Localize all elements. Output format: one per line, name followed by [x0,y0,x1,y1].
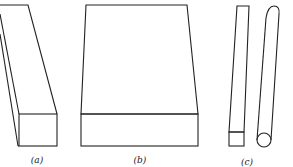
figure-c-square-rod [229,6,249,146]
figure-a-end-face [19,114,57,146]
figure-c-cylinder-right [266,6,279,140]
figure-c-cylinder-left [257,18,266,140]
diagram-canvas [0,0,293,167]
figure-b-front-face [81,114,198,146]
figure-b-label: (b) [134,155,147,165]
figure-a-left-edge [0,14,19,114]
figure-c-rod-end [229,132,244,146]
figure-c-label: (c) [241,157,253,167]
figure-c-rod-body [229,6,249,132]
figure-a-back-edge [0,34,18,146]
figure-a-label: (a) [31,155,43,165]
figure-b-top-face [81,5,198,114]
figure-c-cylinder [257,6,279,147]
figure-c-cylinder-end [257,133,271,147]
figure-a-bar [0,5,57,146]
figure-b-slab [81,5,198,146]
